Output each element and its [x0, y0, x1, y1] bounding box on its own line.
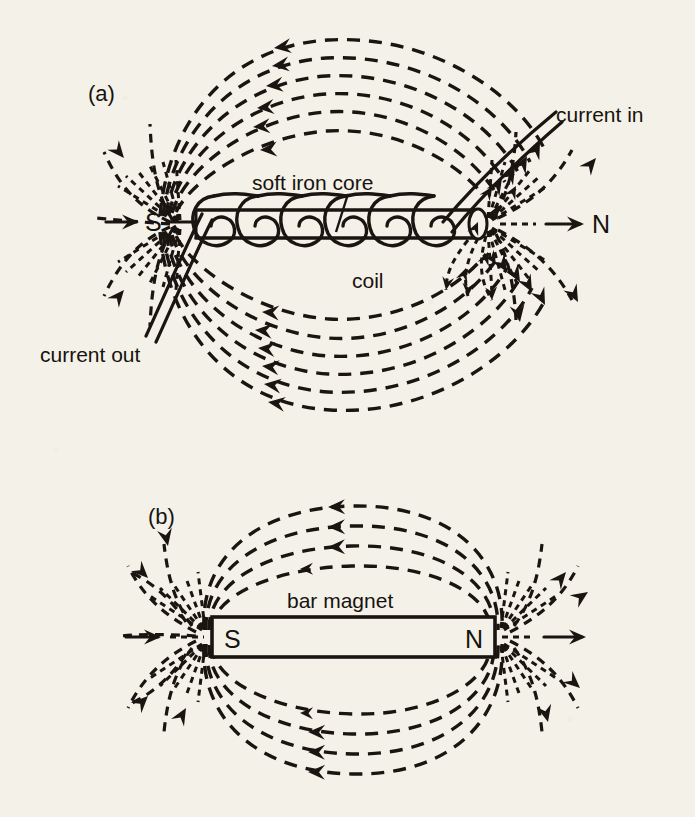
panel-a-south-label: S	[145, 208, 162, 236]
panel-a-north-pole-marker: N	[500, 210, 610, 238]
panel-a-label: (a)	[88, 81, 115, 106]
panel-b-label: (b)	[148, 504, 175, 529]
coil-label: coil	[352, 269, 384, 292]
current-out-label: current out	[40, 343, 141, 366]
panel-b-north-label: N	[465, 625, 483, 653]
panel-b: (b)	[120, 499, 592, 780]
magnetic-field-diagram: (a)	[0, 0, 695, 817]
current-in-label: current in	[556, 103, 644, 126]
panel-a-north-label: N	[592, 210, 610, 238]
panel-b-upper-arrowheads	[300, 499, 345, 575]
panel-b-field-lines-lower	[204, 644, 502, 774]
figure-page: (a)	[0, 0, 695, 817]
panel-a-north-pole-strands	[496, 132, 572, 320]
bar-magnet-body	[212, 617, 495, 657]
panel-b-south-label: S	[224, 625, 241, 653]
panel-a: (a)	[40, 38, 644, 412]
panel-b-south-incoming-arrows	[131, 528, 193, 727]
soft-iron-core-label: soft iron core	[252, 171, 373, 194]
panel-a-south-pole-marker: S	[106, 208, 200, 236]
bar-magnet-label: bar magnet	[287, 589, 393, 612]
